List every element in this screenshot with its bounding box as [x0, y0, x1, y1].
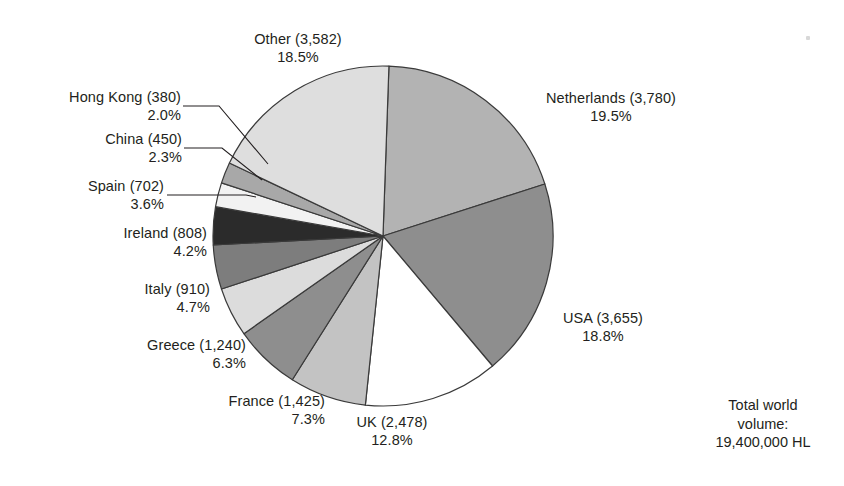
label-ireland: Ireland (808) 4.2%	[123, 225, 207, 260]
chart-canvas: Hong Kong (380) 2.0% China (450) 2.3% Sp…	[0, 0, 844, 486]
label-ireland-percent: 4.2%	[123, 243, 207, 261]
label-spain: Spain (702) 3.6%	[88, 178, 164, 213]
total-note-line-1: Total world	[688, 396, 838, 415]
label-italy: Italy (910) 4.7%	[144, 281, 210, 316]
label-netherlands: Netherlands (3,780) 19.5%	[502, 90, 720, 125]
label-hong-kong: Hong Kong (380) 2.0%	[69, 89, 181, 124]
label-france: France (1,425) 7.3%	[229, 393, 326, 428]
label-uk-percent: 12.8%	[332, 432, 452, 450]
label-other-percent: 18.5%	[218, 49, 378, 67]
label-uk: UK (2,478) 12.8%	[332, 414, 452, 449]
label-usa: USA (3,655) 18.8%	[533, 310, 673, 345]
label-china: China (450) 2.3%	[105, 131, 182, 166]
label-france-name: France (1,425)	[229, 393, 326, 411]
label-uk-name: UK (2,478)	[332, 414, 452, 432]
label-hong-kong-percent: 2.0%	[69, 107, 181, 125]
label-other-name: Other (3,582)	[218, 31, 378, 49]
label-other: Other (3,582) 18.5%	[218, 31, 378, 66]
total-note-line-2: volume:	[688, 415, 838, 434]
label-france-percent: 7.3%	[229, 411, 326, 429]
label-italy-percent: 4.7%	[144, 299, 210, 317]
total-world-volume-note: Total world volume: 19,400,000 HL	[688, 396, 838, 452]
label-spain-percent: 3.6%	[88, 196, 164, 214]
label-ireland-name: Ireland (808)	[123, 225, 207, 243]
label-usa-percent: 18.8%	[533, 328, 673, 346]
label-usa-name: USA (3,655)	[533, 310, 673, 328]
label-greece-percent: 6.3%	[147, 355, 246, 373]
label-china-name: China (450)	[105, 131, 182, 149]
label-greece: Greece (1,240) 6.3%	[147, 337, 246, 372]
total-note-line-3: 19,400,000 HL	[688, 433, 838, 452]
label-hong-kong-name: Hong Kong (380)	[69, 89, 181, 107]
label-italy-name: Italy (910)	[144, 281, 210, 299]
label-netherlands-name: Netherlands (3,780)	[502, 90, 720, 108]
scan-speck-artifact	[806, 36, 810, 40]
label-china-percent: 2.3%	[105, 149, 182, 167]
label-greece-name: Greece (1,240)	[147, 337, 246, 355]
label-netherlands-percent: 19.5%	[502, 108, 720, 126]
label-spain-name: Spain (702)	[88, 178, 164, 196]
